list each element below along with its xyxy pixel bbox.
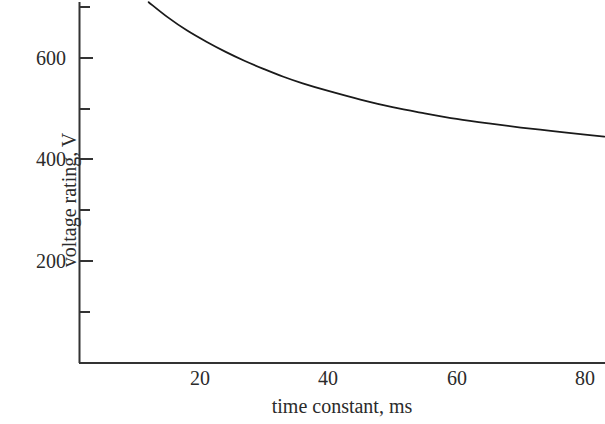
data-series-line: [149, 2, 605, 136]
x-axis-title: time constant, ms: [272, 396, 413, 416]
y-axis-title-text: voltage rating, V: [59, 133, 79, 268]
y-tick-label-600: 600: [14, 48, 66, 68]
y-axis-major-ticks: [80, 58, 94, 261]
y-axis-title: voltage rating, V: [59, 133, 79, 268]
x-tick-label-60: 60: [447, 368, 467, 388]
x-tick-label-80: 80: [575, 368, 595, 388]
x-tick-label-40: 40: [318, 368, 338, 388]
plot-area: [0, 0, 605, 424]
chart-figure: 600 400 200 20 40 60 80 time constant, m…: [0, 0, 605, 424]
x-tick-label-20: 20: [190, 368, 210, 388]
